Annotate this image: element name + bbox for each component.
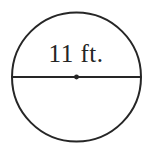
diameter-measurement-label: 11 ft.	[0, 40, 152, 68]
geometry-figure: 11 ft.	[0, 0, 152, 148]
center-point-dot	[74, 75, 79, 80]
circle-diagram-svg	[0, 0, 152, 148]
